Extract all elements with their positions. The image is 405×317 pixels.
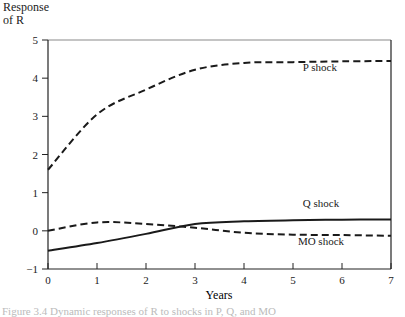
- figure-caption: Figure 3.4 Dynamic responses of R to sho…: [2, 305, 276, 317]
- y-axis: 543210−1: [26, 34, 48, 275]
- y-tick-label: −1: [26, 263, 38, 275]
- x-tick-label: 4: [241, 274, 247, 286]
- x-axis: 01234567: [45, 263, 394, 286]
- x-tick-label: 5: [290, 274, 296, 286]
- x-tick-label: 3: [192, 274, 198, 286]
- series-lines: [48, 61, 391, 251]
- y-tick-label: 1: [33, 187, 39, 199]
- y-tick-label: 3: [33, 110, 39, 122]
- x-tick-label: 1: [94, 274, 100, 286]
- series-line-p-shock: [48, 61, 391, 170]
- y-tick-label: 4: [33, 72, 39, 84]
- x-axis-label: Years: [206, 288, 233, 302]
- series-label: P shock: [303, 61, 338, 73]
- y-tick-label: 5: [33, 34, 39, 46]
- x-tick-label: 7: [388, 274, 394, 286]
- series-label: MO shock: [298, 235, 345, 247]
- series-line-mo-shock: [48, 222, 391, 236]
- y-tick-label: 0: [33, 225, 39, 237]
- series-label: Q shock: [303, 197, 340, 209]
- x-tick-label: 6: [339, 274, 345, 286]
- y-tick-label: 2: [33, 149, 39, 161]
- x-tick-label: 0: [45, 274, 51, 286]
- x-tick-label: 2: [143, 274, 149, 286]
